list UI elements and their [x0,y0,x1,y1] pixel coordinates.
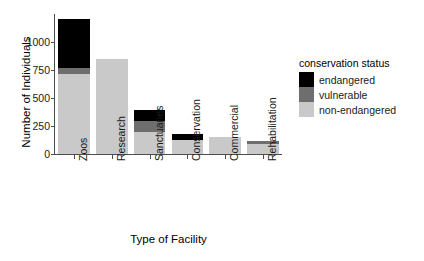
bar-segment-vulnerable[interactable] [58,68,90,75]
x-tick-label-research: Research [116,116,127,161]
x-tick-label-conservation: Conservation [191,99,202,161]
y-tick-mark [51,98,54,99]
x-tick-label-zoos: Zoos [78,138,89,161]
x-tick-label-commercial: Commercial [229,105,240,161]
legend-swatch-vulnerable [299,87,314,102]
legend-label: vulnerable [319,89,367,101]
legend-title: conservation status [299,57,421,69]
stacked-bar-chart: Number of Individuals 02505007501000 Zoo… [0,0,424,261]
legend-item-endangered[interactable]: endangered [299,72,421,87]
x-tick-mark [112,155,113,159]
y-tick-label: 250 [16,121,50,132]
legend-swatch-endangered [299,72,314,87]
legend-label: endangered [319,74,375,86]
y-tick-label: 1000 [16,37,50,48]
bar-zoos[interactable] [58,18,90,154]
legend-swatch-non-endangered [299,102,314,117]
y-tick-mark [51,70,54,71]
x-tick-mark [150,155,151,159]
y-tick-mark [51,126,54,127]
y-tick-mark [51,42,54,43]
legend-item-vulnerable[interactable]: vulnerable [299,87,421,102]
x-tick-mark [225,155,226,159]
y-tick-mark [51,154,54,155]
legend: conservation status endangeredvulnerable… [299,57,421,117]
legend-item-non-endangered[interactable]: non-endangered [299,102,421,117]
x-tick-label-sanctuaries: Sanctuaries [154,106,165,161]
y-tick-label: 0 [16,149,50,160]
x-tick-mark [187,155,188,159]
x-axis-title: Type of Facility [55,233,282,245]
legend-label: non-endangered [319,104,396,116]
plot-area [55,14,282,154]
x-tick-mark [74,155,75,159]
bar-segment-endangered[interactable] [58,19,90,68]
y-tick-label: 750 [16,65,50,76]
y-tick-label: 500 [16,93,50,104]
y-axis-tick-labels: 02505007501000 [14,0,50,261]
x-tick-label-rehabilitation: Rehabilitation [267,97,278,161]
legend-entries: endangeredvulnerablenon-endangered [299,72,421,117]
x-tick-mark [263,155,264,159]
